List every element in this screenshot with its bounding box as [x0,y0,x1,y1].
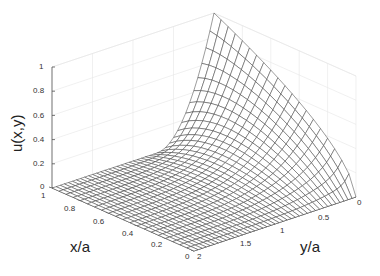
z-tick: 1 [39,62,43,71]
y-axis-label: y/a [300,238,320,255]
x-tick: 0.8 [64,204,75,213]
x-tick: 0.6 [93,217,104,226]
z-tick: 0.8 [33,86,44,95]
x-tick: 0 [185,252,189,261]
x-tick: 0.2 [151,240,162,249]
y-tick: 0.5 [318,213,329,222]
y-tick: 2 [197,252,201,261]
surface-mesh [52,13,356,251]
y-tick: 1.5 [240,239,251,248]
y-tick: 1 [280,226,284,235]
y-tick: 0 [357,198,361,207]
z-tick: 0 [40,182,44,191]
z-axis-label: u(x,y) [8,115,25,153]
z-tick: 0.2 [33,159,44,168]
z-tick: 0.6 [33,111,44,120]
surface-plot [0,0,380,276]
x-axis-label: x/a [70,238,90,255]
x-tick: 1 [41,191,45,200]
x-tick: 0.4 [122,229,133,238]
z-tick: 0.4 [33,135,44,144]
